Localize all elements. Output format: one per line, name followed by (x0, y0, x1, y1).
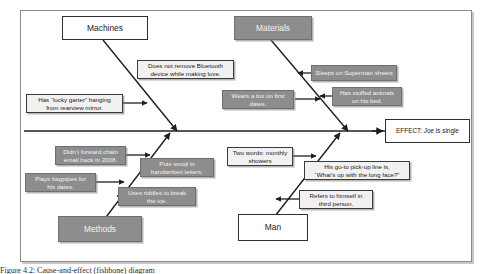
figure-page: Machines Materials Methods Man EFFECT: J… (0, 0, 492, 274)
category-box-methods[interactable]: Methods (58, 216, 142, 242)
cause-box-superman-sheets[interactable]: Sleeps on Superman sheets (311, 65, 397, 81)
cause-box-chain-email[interactable]: Didn’t forward chain email back in 2008. (55, 146, 126, 165)
cause-text-third-person: Refers to himself in third person. (302, 192, 370, 208)
category-label-machines: Machines (65, 23, 145, 34)
effect-label: EFFECT: Joe is single (388, 127, 467, 135)
cause-box-riddles[interactable]: Uses riddles to break the ice. (118, 187, 196, 206)
cause-text-bluetooth: Does not remove Bluetooth device while m… (140, 62, 231, 78)
cause-box-emoji-letters[interactable]: Puts emoji in handwritten letters. (140, 158, 214, 177)
cause-text-riddles: Uses riddles to break the ice. (121, 189, 193, 205)
category-box-man[interactable]: Man (238, 214, 308, 241)
cause-box-bluetooth[interactable]: Does not remove Bluetooth device while m… (137, 60, 234, 79)
cause-text-pickup-line: His go-to pick-up line is, “What’s up wi… (307, 163, 407, 179)
figure-caption: Figure 4.2: Cause-and-effect (fishbone) … (0, 266, 492, 274)
cause-box-monthly-showers[interactable]: Two words: monthly showers (227, 147, 293, 166)
cause-box-bagpipes[interactable]: Plays bagpipes for his dates. (25, 173, 96, 192)
category-label-man: Man (241, 222, 305, 233)
category-box-machines[interactable]: Machines (62, 16, 148, 40)
cause-box-lucky-garter[interactable]: Has “lucky garter” hanging from rearview… (26, 94, 123, 113)
cause-box-third-person[interactable]: Refers to himself in third person. (299, 190, 373, 209)
category-label-methods: Methods (61, 224, 139, 235)
cause-text-superman-sheets: Sleeps on Superman sheets (314, 69, 394, 77)
cause-box-tux[interactable]: Wears a tux on first dates. (222, 90, 294, 109)
category-box-materials[interactable]: Materials (234, 16, 312, 40)
cause-text-lucky-garter: Has “lucky garter” hanging from rearview… (29, 96, 120, 112)
effect-box[interactable]: EFFECT: Joe is single (385, 119, 470, 143)
cause-box-stuffed-animals[interactable]: Has stuffed animals on his bed. (332, 87, 402, 106)
cause-text-stuffed-animals: Has stuffed animals on his bed. (335, 89, 399, 105)
cause-text-bagpipes: Plays bagpipes for his dates. (28, 175, 93, 191)
cause-box-pickup-line[interactable]: His go-to pick-up line is, “What’s up wi… (304, 161, 410, 180)
cause-text-monthly-showers: Two words: monthly showers (230, 149, 290, 165)
cause-text-emoji-letters: Puts emoji in handwritten letters. (143, 160, 211, 176)
category-label-materials: Materials (237, 23, 309, 34)
cause-text-chain-email: Didn’t forward chain email back in 2008. (58, 148, 123, 164)
cause-text-tux: Wears a tux on first dates. (225, 92, 291, 108)
